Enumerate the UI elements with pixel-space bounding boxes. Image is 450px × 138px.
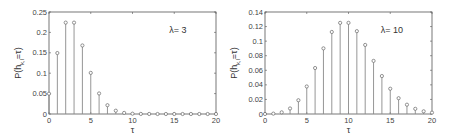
stem-marker [198, 112, 201, 115]
stem-marker [156, 112, 159, 115]
stem-marker [339, 21, 342, 24]
x-tick-label: 10 [128, 116, 136, 125]
stem-marker [64, 21, 67, 24]
stem-marker [364, 43, 367, 46]
y-tick-label: 0.1 [253, 37, 263, 46]
stem-marker [422, 110, 425, 113]
stem-marker [297, 99, 300, 102]
y-axis-label-tail: =τ) [13, 47, 23, 59]
y-tick-label: 0.15 [32, 48, 47, 57]
x-tick-label: 15 [386, 116, 394, 125]
stem-marker [72, 21, 75, 24]
y-tick-label: 0.1 [37, 69, 47, 78]
y-tick-label: 0.25 [32, 8, 47, 17]
x-tick-label: 0 [47, 116, 51, 125]
stem-marker [189, 112, 192, 115]
stem-marker [173, 112, 176, 115]
y-tick-label: 0 [259, 110, 263, 119]
stem-marker [330, 30, 333, 33]
x-tick-label: 5 [89, 116, 93, 125]
y-tick-label: 0.02 [248, 95, 263, 104]
x-tick-label: 15 [170, 116, 178, 125]
stem-marker [322, 47, 325, 50]
x-tick-label: 10 [344, 116, 352, 125]
y-tick-label: 0.04 [248, 80, 263, 89]
stem-marker [81, 44, 84, 47]
lambda-annotation: λ= 10 [381, 25, 403, 35]
stem-marker [288, 107, 291, 110]
stem-marker [280, 111, 283, 114]
stem-marker [123, 111, 126, 114]
x-tick-label: 0 [263, 116, 267, 125]
stem-plot-lambda-10: 0510152000.020.040.060.080.10.120.14τP(h… [225, 0, 450, 138]
y-tick-label: 0.12 [248, 22, 263, 31]
stem-marker [405, 103, 408, 106]
stem-marker [114, 109, 117, 112]
stem-marker [214, 112, 217, 115]
y-tick-label: 0.14 [248, 8, 263, 17]
stem-marker [181, 112, 184, 115]
chart-lambda-3: 0510152000.050.10.150.20.25τP(hk,l=τ)λ= … [0, 0, 225, 138]
chart-lambda-10: 0510152000.020.040.060.080.10.120.14τP(h… [225, 0, 450, 138]
y-tick-label: 0.05 [32, 89, 47, 98]
stem-marker [305, 85, 308, 88]
x-tick-label: 5 [305, 116, 309, 125]
stem-marker [56, 51, 59, 54]
stem-marker [380, 74, 383, 77]
x-axis-label: τ [347, 125, 351, 135]
y-axis-label-main: P(h [13, 65, 23, 79]
stem-marker [206, 112, 209, 115]
y-tick-label: 0.06 [248, 66, 263, 75]
y-tick-label: 0.08 [248, 51, 263, 60]
stem-marker [397, 97, 400, 100]
y-tick-label: 0 [43, 110, 47, 119]
stem-marker [272, 112, 275, 115]
x-axis-label: τ [131, 125, 135, 135]
stem-marker [389, 87, 392, 90]
stem-marker [347, 21, 350, 24]
stem-plot-lambda-3: 0510152000.050.10.150.20.25τP(hk,l=τ)λ= … [0, 0, 225, 138]
stem-marker [430, 111, 433, 114]
y-axis-label: P(hk,l=τ) [13, 47, 25, 78]
y-axis-label-tail: =τ) [229, 47, 239, 59]
y-axis-label-main: P(h [229, 65, 239, 79]
stem-marker [263, 112, 266, 115]
stem-marker [164, 112, 167, 115]
stem-marker [139, 112, 142, 115]
stem-marker [314, 66, 317, 69]
stem-marker [372, 59, 375, 62]
stem-marker [106, 104, 109, 107]
stem-marker [98, 92, 101, 95]
lambda-annotation: λ= 3 [169, 25, 186, 35]
stem-marker [355, 30, 358, 33]
stem-marker [414, 107, 417, 110]
y-axis-label: P(hk,l=τ) [229, 47, 241, 78]
x-tick-label: 20 [428, 116, 436, 125]
stem-marker [148, 112, 151, 115]
stem-marker [47, 92, 50, 95]
y-tick-label: 0.2 [37, 28, 47, 37]
stem-marker [89, 71, 92, 74]
stem-marker [131, 112, 134, 115]
x-tick-label: 20 [212, 116, 220, 125]
